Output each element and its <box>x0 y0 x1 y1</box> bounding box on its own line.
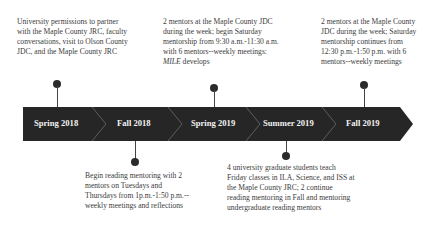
segment-label-fall-2019: Fall 2019 <box>346 118 380 128</box>
event-note-fall-2019: 2 mentors at the Maple County JDC during… <box>321 17 421 67</box>
event-note-fall-2018: Begin reading mentoring with 2 mentors o… <box>85 171 190 211</box>
event-connector-line <box>214 90 215 107</box>
segment-label-spring-2019: Spring 2019 <box>191 118 235 128</box>
event-note-text: 2 mentors at the Maple County JDC during… <box>163 17 279 56</box>
segment-label-spring-2018: Spring 2018 <box>34 118 78 128</box>
segment-label-summer-2019: Summer 2019 <box>263 118 314 128</box>
event-marker-dot <box>282 152 290 160</box>
segment-label-fall-2018: Fall 2018 <box>117 118 151 128</box>
event-note-summer-2019: 4 university graduate students teach Fri… <box>227 163 355 213</box>
event-note-spring-2019: 2 mentors at the Maple County JDC during… <box>163 17 283 67</box>
event-marker-dot <box>131 158 139 166</box>
event-note-text: develops <box>181 57 210 66</box>
event-note-emphasis: MILE <box>163 57 181 66</box>
event-note-spring-2018: University permissions to partner with t… <box>17 17 129 57</box>
event-connector-line <box>57 86 58 107</box>
event-connector-line <box>364 87 365 107</box>
